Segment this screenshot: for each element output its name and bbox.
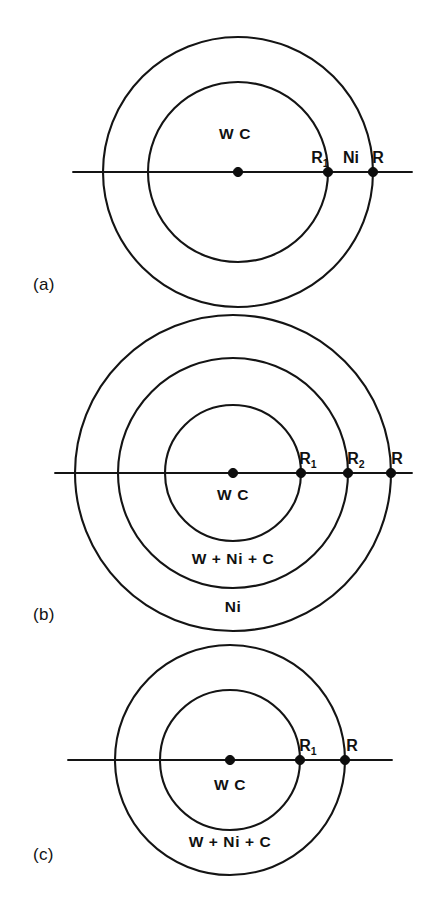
panel-caption-b: (b) [33,605,55,624]
panel-b-marker-dot-2 [343,468,352,477]
figure-root: R1RNiW C(a)R1R2RW CW + Ni + CNi(b)R1RW C… [0,0,443,910]
panel-a-marker-dot-2 [368,167,377,176]
panel-b-marker-dot-1 [296,468,305,477]
panel-b-radius-label-1: R1 [299,450,317,470]
panel-c-radius-label-1: R1 [299,737,317,757]
panel-b-radius-label-2: R2 [347,450,365,470]
panel-a-radius-label-2: R [372,149,384,166]
panel-c: R1RW CW + Ni + C(c) [33,645,392,875]
panel-a-marker-dot-0 [233,167,242,176]
panel-c-marker-dot-2 [340,755,349,764]
panel-c-radius-label-2: R [346,737,358,754]
panel-b-radius-label-3: R [391,450,403,467]
panel-a-zone-label-0: W C [219,125,251,142]
panel-c-zone-label-0: W C [214,776,246,793]
panel-b-zone-label-1: W + Ni + C [192,550,275,567]
panel-b-zone-label-2: Ni [225,598,242,615]
panel-c-marker-dot-0 [225,755,234,764]
panel-b-zone-label-0: W C [217,486,249,503]
panel-caption-a: (a) [33,275,55,294]
panel-b-marker-dot-0 [228,468,237,477]
panel-b: R1R2RW CW + Ni + CNi(b) [33,315,412,631]
panel-a: R1RNiW C(a) [33,37,412,307]
concentric-zone-diagram: R1RNiW C(a)R1R2RW CW + Ni + CNi(b)R1RW C… [0,0,443,910]
panel-caption-c: (c) [33,845,54,864]
panel-c-marker-dot-1 [295,755,304,764]
panel-b-marker-dot-3 [386,468,395,477]
panel-a-between-label-0: Ni [343,149,359,166]
panel-c-zone-label-1: W + Ni + C [189,833,272,850]
